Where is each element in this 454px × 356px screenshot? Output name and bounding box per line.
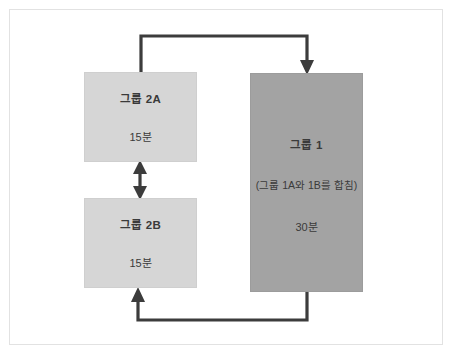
node-group-1-title: 그룹 1: [290, 136, 322, 152]
node-group-1[interactable]: 그룹 1 (그룹 1A와 1B를 합침) 30분: [250, 73, 363, 292]
node-group-2b-duration: 15분: [129, 254, 151, 270]
node-group-1-note: (그룹 1A와 1B를 합침): [256, 177, 357, 192]
node-group-2b-title: 그룹 2B: [120, 216, 161, 232]
node-group-1-duration: 30분: [295, 218, 317, 234]
diagram-canvas: 그룹 2A 15분 그룹 2B 15분 그룹 1 (그룹 1A와 1B를 합침)…: [0, 0, 454, 356]
node-group-2b[interactable]: 그룹 2B 15분: [84, 198, 197, 288]
node-group-2a[interactable]: 그룹 2A 15분: [84, 72, 197, 162]
diagram-frame: [9, 9, 443, 345]
node-group-2a-title: 그룹 2A: [120, 90, 161, 106]
node-group-2a-duration: 15분: [129, 128, 151, 144]
